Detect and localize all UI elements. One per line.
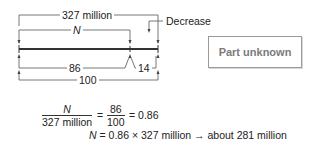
part-label: N bbox=[71, 24, 83, 36]
solution-equation: N = 0.86 × 327 million → about 281 milli… bbox=[89, 129, 287, 141]
decrease-arrow bbox=[149, 21, 163, 30]
fraction-percent: 86 100 bbox=[107, 103, 125, 128]
whole-label: 327 million bbox=[60, 9, 114, 21]
part-unknown-box: Part unknown bbox=[208, 36, 302, 68]
equals-sign: = bbox=[97, 109, 103, 121]
fraction-denominator: 100 bbox=[107, 115, 125, 128]
part-percent-label: 86 bbox=[67, 62, 83, 74]
solution-variable: N bbox=[89, 129, 97, 141]
solution-expression: = 0.86 × 327 million → about 281 million bbox=[97, 129, 287, 141]
total-percent-label: 100 bbox=[77, 74, 99, 86]
fraction-numerator: N bbox=[63, 103, 71, 115]
result-equation: = 0.86 bbox=[129, 109, 159, 121]
decrease-label: Decrease bbox=[164, 15, 213, 27]
part-unknown-label: Part unknown bbox=[219, 46, 292, 58]
fraction-numerator: 86 bbox=[110, 103, 122, 115]
fraction-denominator: 327 million bbox=[42, 115, 92, 128]
fraction-n-over-whole: N 327 million bbox=[42, 103, 92, 128]
decrease-percent-label: 14 bbox=[136, 62, 152, 74]
